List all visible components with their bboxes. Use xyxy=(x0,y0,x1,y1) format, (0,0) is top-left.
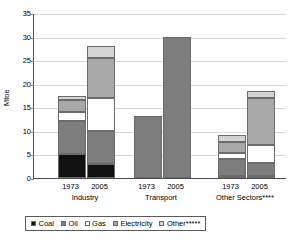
bar-segment xyxy=(58,154,86,178)
bar-segment xyxy=(163,37,191,178)
legend-swatch-icon xyxy=(85,221,90,226)
x-axis-group-label: Transport xyxy=(116,193,206,202)
legend-item: Electricity xyxy=(113,220,153,228)
x-axis-group-label: Other Sectors**** xyxy=(200,193,290,202)
y-axis-tick-label: 0 xyxy=(14,175,31,183)
y-axis-tick-mark xyxy=(31,155,34,156)
stacked-bar-chart: Mtoe 35302520151050 19732005Industry1973… xyxy=(0,0,301,243)
legend-item: Other***** xyxy=(159,220,200,228)
bar-segment xyxy=(218,153,246,159)
y-axis-tick-mark xyxy=(31,61,34,62)
y-axis-tick-label: 25 xyxy=(14,57,31,65)
gridline xyxy=(34,61,286,62)
y-axis-tick-label: 35 xyxy=(14,10,31,18)
bar-segment xyxy=(87,98,115,131)
y-axis-tick-label: 15 xyxy=(14,104,31,112)
bar-segment xyxy=(247,163,275,176)
bar-segment xyxy=(58,96,86,101)
y-axis-tick-mark xyxy=(31,132,34,133)
plot-area xyxy=(33,14,286,179)
legend-item-label: Oil xyxy=(68,220,77,228)
legend-item-label: Electricity xyxy=(120,220,152,228)
x-axis-year-label: 2005 xyxy=(83,182,117,191)
x-axis-year-label: 2005 xyxy=(243,182,277,191)
bar xyxy=(247,91,275,178)
y-axis-tick-labels: 35302520151050 xyxy=(14,14,31,179)
y-axis-tick-label: 20 xyxy=(14,81,31,89)
gridline xyxy=(34,85,286,86)
x-axis-labels: 19732005Industry19732005Transport1973200… xyxy=(33,182,286,212)
legend-item-label: Coal xyxy=(39,220,54,228)
y-axis-tick-mark xyxy=(31,14,34,15)
bar-segment xyxy=(247,145,275,162)
bar-segment xyxy=(58,100,86,112)
bar xyxy=(87,46,115,178)
bar-segment xyxy=(247,91,275,99)
bar-segment xyxy=(134,116,162,178)
bar-segment xyxy=(58,112,86,121)
bar-segment xyxy=(218,142,246,152)
bar-segment xyxy=(58,121,86,154)
gridline xyxy=(34,38,286,39)
bar xyxy=(163,37,191,178)
y-axis-tick-mark xyxy=(31,85,34,86)
legend-swatch-icon xyxy=(61,221,66,226)
legend-swatch-icon xyxy=(159,221,164,226)
gridline xyxy=(34,14,286,15)
bar-segment xyxy=(247,98,275,145)
legend-item: Oil xyxy=(61,220,78,228)
y-axis-title: Mtoe xyxy=(1,78,13,118)
bar-segment xyxy=(87,164,115,178)
legend-item: Gas xyxy=(85,220,106,228)
y-axis-tick-mark xyxy=(31,179,34,180)
legend-item: Coal xyxy=(31,220,54,228)
x-axis-year-label: 2005 xyxy=(159,182,193,191)
bar-segment xyxy=(87,131,115,164)
chart-legend: CoalOilGasElectricityOther***** xyxy=(25,216,206,231)
bar xyxy=(218,135,246,178)
bar-segment xyxy=(218,159,246,176)
bar xyxy=(58,96,86,179)
y-axis-tick-label: 5 xyxy=(14,151,31,159)
bar xyxy=(134,116,162,178)
legend-item-label: Other***** xyxy=(167,220,200,228)
legend-swatch-icon xyxy=(113,221,118,226)
y-axis-tick-mark xyxy=(31,108,34,109)
legend-item-label: Gas xyxy=(92,220,106,228)
legend-swatch-icon xyxy=(31,221,36,226)
plot-inner xyxy=(34,14,286,178)
bar-segment xyxy=(218,135,246,143)
bar-segment xyxy=(218,176,246,178)
bar-segment xyxy=(87,46,115,58)
bar-segment xyxy=(247,176,275,178)
y-axis-tick-label: 10 xyxy=(14,128,31,136)
bar-segment xyxy=(87,58,115,98)
y-axis-tick-label: 30 xyxy=(14,34,31,42)
y-axis-tick-mark xyxy=(31,38,34,39)
